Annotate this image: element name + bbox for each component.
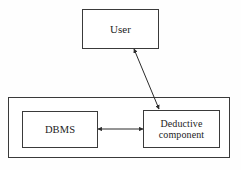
node-dbms[interactable]: DBMS	[22, 111, 98, 148]
node-deductive-component[interactable]: Deductive component	[143, 110, 220, 148]
diagram-canvas: User DBMS Deductive component	[0, 0, 241, 170]
node-user[interactable]: User	[82, 9, 159, 49]
node-dbms-label: DBMS	[45, 124, 75, 136]
node-deductive-component-label: Deductive component	[159, 118, 204, 140]
node-user-label: User	[110, 23, 131, 35]
